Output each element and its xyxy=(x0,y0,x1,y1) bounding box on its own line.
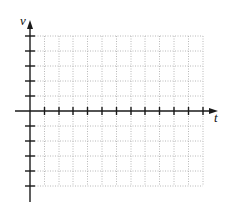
v-axis-arrow-icon xyxy=(27,20,33,29)
coordinate-grid-diagram: v t xyxy=(0,0,228,214)
t-axis-label: t xyxy=(214,110,218,125)
v-axis-label: v xyxy=(20,13,26,28)
